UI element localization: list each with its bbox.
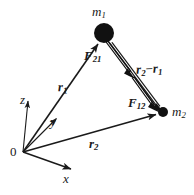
gravitation-vector-diagram: m1 m2 r1 r2 r2−r1 F21 F12 z y x 0 bbox=[0, 0, 194, 195]
vector-F21 bbox=[106, 40, 135, 79]
vector-r2-label: r2 bbox=[89, 137, 98, 152]
origin-label: 0 bbox=[10, 145, 17, 158]
vector-r1-label: r1 bbox=[58, 80, 68, 96]
vector-r2-minus-r1-label: r2−r1 bbox=[136, 61, 163, 78]
diagram-canvas bbox=[0, 0, 194, 195]
mass-m2-dot bbox=[158, 107, 168, 117]
axis-y-label: y bbox=[50, 115, 56, 128]
vector-F12-label: F12 bbox=[128, 96, 146, 111]
vector-F21-label: F21 bbox=[84, 49, 102, 64]
axis-x bbox=[23, 152, 71, 169]
mass-m1-label: m1 bbox=[92, 5, 106, 20]
axis-z bbox=[23, 101, 28, 152]
axis-x-label: x bbox=[63, 172, 69, 185]
mass-m2-label: m2 bbox=[172, 105, 186, 120]
axis-z-label: z bbox=[20, 93, 25, 106]
mass-m1-dot bbox=[94, 23, 114, 43]
coordinate-axes bbox=[23, 101, 71, 169]
